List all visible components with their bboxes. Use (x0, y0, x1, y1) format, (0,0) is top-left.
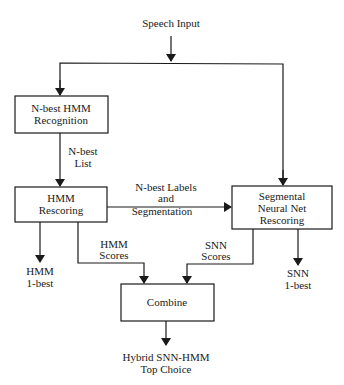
snn-1best-label-1: SNN (287, 267, 309, 279)
nbest-box-line2: Recognition (34, 114, 88, 126)
speech-input-label: Speech Input (142, 17, 200, 29)
snn-box-line3: Rescoring (260, 214, 305, 226)
hybrid-output-label-1: Hybrid SNN-HMM (122, 351, 209, 363)
hybrid-snn-hmm-flow-diagram: Speech Input N-best HMM Recognition N-be… (0, 0, 344, 385)
hmm-1best-label-2: 1-best (27, 277, 54, 289)
snn-scores-label-2: Scores (201, 250, 230, 262)
combine-label: Combine (147, 296, 187, 308)
labels-seg-label-3: Segmentation (132, 205, 193, 217)
labels-seg-label-2: and (158, 192, 174, 204)
hmm-box-line1: HMM (47, 192, 75, 204)
snn-1best-label-2: 1-best (285, 279, 312, 291)
hmm-box-line2: Rescoring (39, 204, 84, 216)
hmm-1best-label-1: HMM (26, 265, 54, 277)
hybrid-output-label-2: Top Choice (141, 363, 192, 375)
nbest-list-label-1: N-best (68, 145, 97, 157)
hmm-scores-label-2: Scores (99, 249, 128, 261)
nbest-box-line1: N-best HMM (31, 102, 91, 114)
snn-box-line2: Neural Net (258, 202, 307, 214)
nbest-list-label-2: List (74, 157, 91, 169)
snn-box-line1: Segmental (259, 190, 305, 202)
